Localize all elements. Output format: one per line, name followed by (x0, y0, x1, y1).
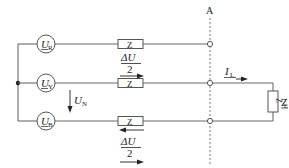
arrow-down-icon (68, 106, 73, 113)
impedance-r-label: Z (127, 40, 133, 50)
arrow-left-icon (119, 128, 126, 133)
source-r: U R (37, 35, 55, 53)
arrow-right-icon (137, 74, 144, 79)
source-r-subscript: R (48, 44, 53, 52)
source-b-subscript: B (48, 121, 53, 129)
load-impedance: Z Z L (268, 91, 288, 112)
svg-text:ΔU: ΔU (120, 135, 136, 147)
arrow-right-icon (137, 160, 144, 165)
impedance-b-label: Z (127, 117, 133, 127)
terminal-y (207, 80, 212, 85)
circuit-diagram: U R U Y U B Z Z Z ΔU 2 (0, 0, 289, 168)
svg-text:ΔU: ΔU (120, 51, 136, 63)
delta-u-top-num: ΔU (120, 51, 136, 63)
load-impedance-subscript: L (284, 102, 288, 110)
source-y: U Y (37, 74, 55, 92)
impedance-r: Z (118, 40, 143, 50)
voltage-drop-label-bottom: ΔU 2 (119, 128, 144, 165)
delta-u-bottom-num: ΔU (120, 135, 136, 147)
delta-u-bottom-den: 2 (127, 147, 133, 159)
terminal-b (207, 118, 212, 123)
neutral-voltage: U N (68, 90, 88, 113)
source-b: U B (37, 112, 55, 130)
load-current: I L (224, 65, 248, 82)
section-a: A (206, 5, 214, 165)
delta-u-top-den: 2 (127, 63, 133, 75)
impedance-y: Z (118, 79, 143, 89)
impedance-y-label: Z (127, 79, 133, 89)
neutral-voltage-subscript: N (82, 100, 87, 108)
voltage-drop-label-top: ΔU 2 (120, 51, 144, 79)
section-a-label: A (206, 5, 214, 16)
arrow-right-icon (241, 77, 248, 82)
impedance-b: Z (118, 117, 143, 127)
source-y-subscript: Y (48, 83, 53, 91)
terminal-r (207, 41, 212, 46)
